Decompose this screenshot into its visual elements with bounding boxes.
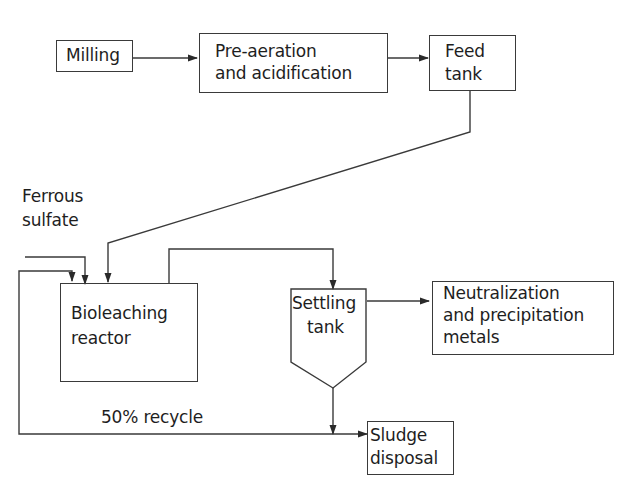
node-bioleaching-line2: reactor <box>71 328 131 349</box>
node-neutralization: Neutralization and precipitation metals <box>432 281 614 355</box>
node-settling-tank-line2: tank <box>307 317 344 338</box>
node-milling: Milling <box>56 40 133 72</box>
node-bioleaching-reactor: Bioleaching reactor <box>60 283 198 382</box>
node-feed-tank-line1: Feed <box>445 41 485 62</box>
node-sludge-line1: Sludge <box>370 425 427 446</box>
node-feed-tank: Feed tank <box>429 35 516 91</box>
input-ferrous-sulfate-line2: sulfate <box>22 210 78 231</box>
node-pre-aeration-line1: Pre-aeration <box>215 41 317 62</box>
node-neutralization-line1: Neutralization <box>443 283 560 304</box>
node-bioleaching-line1: Bioleaching <box>71 303 168 324</box>
node-neutralization-line2: and precipitation <box>443 305 584 326</box>
edge-label-recycle: 50% recycle <box>101 407 203 428</box>
node-neutralization-line3: metals <box>443 327 499 348</box>
node-sludge-line2: disposal <box>370 448 438 469</box>
input-ferrous-sulfate-line1: Ferrous <box>22 186 83 207</box>
arrow-feedtank-to-reactor <box>108 91 470 282</box>
node-feed-tank-line2: tank <box>445 64 482 85</box>
node-pre-aeration: Pre-aeration and acidification <box>199 33 388 93</box>
node-sludge-disposal: Sludge disposal <box>367 421 454 475</box>
node-milling-label: Milling <box>66 45 120 66</box>
node-settling-tank-line1: Settling <box>292 293 356 314</box>
node-pre-aeration-line2: and acidification <box>215 63 352 84</box>
